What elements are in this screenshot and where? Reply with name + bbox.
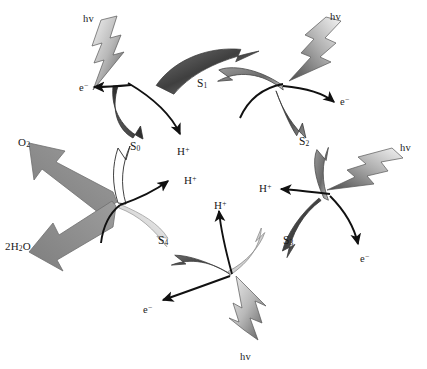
s1-ribbon-down [113,86,143,139]
node-s0 [29,143,168,271]
h-arrow-s4 [219,211,232,274]
s4-ribbon-right [228,228,264,275]
node-s1 [92,16,262,139]
electron-label-s2: e− [340,96,349,108]
photon-label-s4: hv [240,352,251,363]
s3-ribbon-downleft [282,198,321,257]
e-arrow-s2 [283,86,334,102]
node-s4 [163,211,266,340]
e-arrow-s4 [163,276,230,300]
electron-label-s1: e− [79,82,88,94]
e-arrow-s3 [330,196,358,244]
electron-label-s3: e− [360,253,369,265]
s0-ribbon-up [114,146,131,204]
hv-bolt-s1 [92,16,124,90]
water-label: 2H2O [5,241,31,253]
s2-ribbon-down [276,91,306,138]
e-arrow-s1 [94,85,131,87]
hv-bolt-s3 [327,148,403,190]
state-label-s0: S0 [130,141,141,153]
state-label-s1: S1 [197,78,208,90]
kok-cycle-diagram: S0 S1 S2 S3 S4 hv hv hv hv e− e− e− e− H… [0,0,427,369]
proton-label-s4: H+ [214,200,227,211]
hv-bolt-s2 [289,17,341,81]
h-arrow-s0 [120,181,168,205]
electron-label-s4: e− [143,304,152,316]
s2-incoming-curve [240,84,283,118]
node-s3 [281,147,403,257]
photon-label-s1: hv [83,14,94,25]
proton-label-s3: H+ [259,183,272,194]
hv-bolt-s4 [229,276,266,340]
kok-cycle-artwork [0,0,427,369]
state-label-s3: S3 [283,235,294,247]
proton-label-s0: H+ [184,175,197,186]
node-s2 [218,17,341,138]
proton-label-s1: H+ [177,146,190,157]
photon-label-s3: hv [400,143,411,154]
state-label-s2: S2 [299,136,310,148]
oxygen-label: O2 [18,137,30,149]
s4-ribbon-left [171,255,230,275]
o2-block-arrow [29,143,117,213]
state-label-s4: S4 [158,235,169,247]
photon-label-s2: hv [330,12,341,23]
